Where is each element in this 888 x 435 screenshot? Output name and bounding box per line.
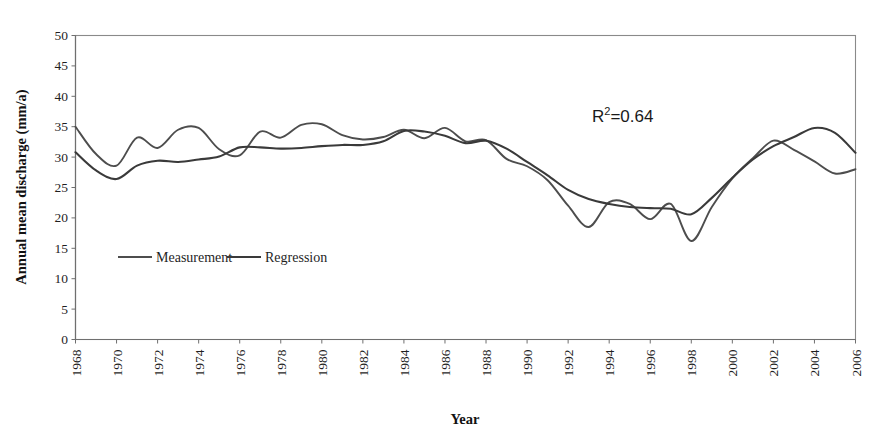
r-squared-value: =0.64 [610, 107, 653, 126]
x-tick-label: 1984 [397, 349, 412, 376]
x-tick-label: 1974 [192, 349, 207, 376]
y-tick-label: 5 [61, 302, 68, 317]
y-tick-label: 35 [55, 119, 69, 134]
x-tick-label: 2006 [849, 349, 864, 376]
y-tick-label: 25 [55, 180, 69, 195]
x-tick-label: 1998 [684, 349, 699, 376]
x-tick-label: 2000 [725, 349, 740, 376]
y-tick-label: 50 [55, 28, 69, 43]
legend-label-regression: Regression [265, 250, 327, 265]
y-axis-title: Annual mean discharge (mm/a) [13, 89, 30, 285]
x-tick-label: 1992 [561, 350, 576, 377]
figure-container: hydrological regime change was detected,… [0, 0, 888, 435]
x-tick-label: 1972 [151, 350, 166, 377]
x-tick-label: 1988 [479, 349, 494, 376]
y-tick-label: 30 [55, 150, 69, 165]
x-tick-label: 1990 [520, 349, 535, 376]
y-tick-label: 0 [61, 332, 68, 347]
legend-label-measurement: Measurement [156, 250, 232, 265]
x-tick-label: 1968 [69, 349, 84, 376]
x-tick-label: 2004 [807, 349, 822, 376]
x-axis-title: Year [451, 411, 481, 427]
x-tick-label: 1976 [233, 349, 248, 376]
x-tick-label: 1996 [643, 349, 658, 376]
r-squared-base: R [592, 107, 604, 126]
x-tick-label: 1982 [356, 350, 371, 377]
x-tick-label: 2002 [766, 350, 781, 377]
r-squared-annotation: R2=0.64 [592, 105, 653, 126]
x-tick-label: 1978 [274, 349, 289, 376]
y-tick-label: 45 [55, 58, 69, 73]
x-tick-label: 1980 [315, 349, 330, 376]
x-tick-label: 1970 [110, 349, 125, 376]
svg-text:R2=0.64: R2=0.64 [592, 105, 653, 126]
discharge-line-chart: 05101520253035404550 1968197019721974197… [0, 0, 888, 435]
x-tick-label: 1994 [602, 349, 617, 376]
x-tick-label: 1986 [438, 349, 453, 376]
y-tick-label: 15 [55, 241, 69, 256]
y-tick-label: 10 [55, 271, 69, 286]
y-tick-label: 20 [55, 210, 69, 225]
y-tick-label: 40 [55, 89, 69, 104]
